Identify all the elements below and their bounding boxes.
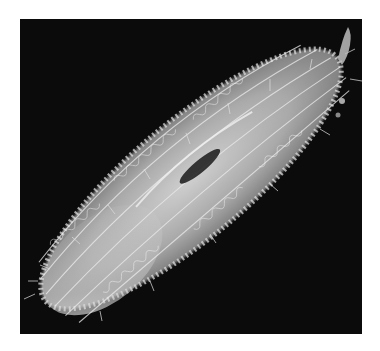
micrograph-panel (20, 19, 362, 334)
ciliate-illustration (20, 19, 362, 334)
apical-tuft (338, 27, 351, 65)
